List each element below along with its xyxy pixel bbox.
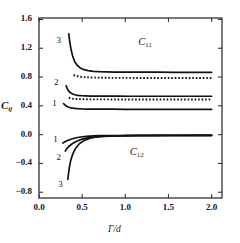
x-tick-label: 1.0 — [110, 203, 140, 212]
curve-number-label: 2 — [57, 153, 62, 162]
annotation-c11-subscript: 11 — [145, 41, 152, 49]
axes-frame — [39, 18, 222, 198]
y-tick-label: 1.2 — [2, 43, 32, 52]
y-tick-label: −0.4 — [2, 158, 32, 167]
plot-frame-box — [39, 18, 222, 198]
x-tick-label: 0.0 — [24, 203, 54, 212]
curve-number-label: 3 — [58, 180, 63, 189]
annotation-c12: C12 — [130, 147, 144, 159]
y-tick-label: 1.6 — [2, 14, 32, 23]
curve-number-label: 2 — [54, 78, 59, 87]
x-tick-label: 1.5 — [153, 203, 183, 212]
annotation-c12-subscript: 12 — [137, 151, 144, 159]
curve-number-label: 1 — [53, 135, 58, 144]
curve-c11-1 — [64, 104, 212, 110]
y-tick-label: 0.8 — [2, 72, 32, 81]
x-axis-label: Γ/d — [108, 225, 121, 235]
curve-c11-2-dotted — [69, 98, 212, 100]
curve-c11-2 — [66, 86, 211, 97]
x-tick-label: 0.5 — [67, 203, 97, 212]
y-tick-label: 0.0 — [2, 130, 32, 139]
x-tick-label: 2.0 — [197, 203, 227, 212]
y-tick-label: −0.8 — [2, 187, 32, 196]
curve-c11-3-dotted — [74, 75, 212, 78]
curve-number-label: 3 — [57, 36, 62, 45]
curve-number-label: 1 — [52, 99, 57, 108]
annotation-c12-main: C — [130, 146, 137, 157]
figure-canvas: Cij Γ/d 1.61.20.80.40.0−0.4−0.8 0.00.51.… — [0, 0, 240, 243]
annotation-c11: C11 — [138, 37, 152, 49]
axis-ticks — [39, 18, 222, 198]
y-tick-label: 0.4 — [2, 101, 32, 110]
